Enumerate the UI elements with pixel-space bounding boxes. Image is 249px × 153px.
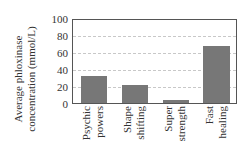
y-tick-60: 60 — [38, 48, 68, 59]
x-label-psychic-powers: Psychic powers — [80, 106, 108, 152]
y-tick-20: 20 — [38, 82, 68, 93]
bar-fast-healing — [203, 46, 230, 103]
gridline-80 — [73, 36, 236, 37]
bar-shape-shifting — [122, 85, 148, 103]
y-axis-title-line-2: concentration (mmol/L) — [25, 14, 38, 144]
x-label-shape-shifting: Shape shifting — [121, 106, 149, 152]
y-axis-title-line-1: Average phloxinase — [12, 14, 25, 144]
y-tick-100: 100 — [38, 14, 68, 25]
y-tick-80: 80 — [38, 31, 68, 42]
plot-area — [72, 19, 237, 104]
bar-psychic-powers — [81, 76, 107, 103]
x-label-super-strength: Super strength — [162, 106, 190, 152]
y-tick-40: 40 — [38, 65, 68, 76]
bar-super-strength — [163, 100, 189, 103]
y-tick-0: 0 — [38, 99, 68, 110]
x-label-fast-healing: Fast healing — [203, 106, 231, 152]
